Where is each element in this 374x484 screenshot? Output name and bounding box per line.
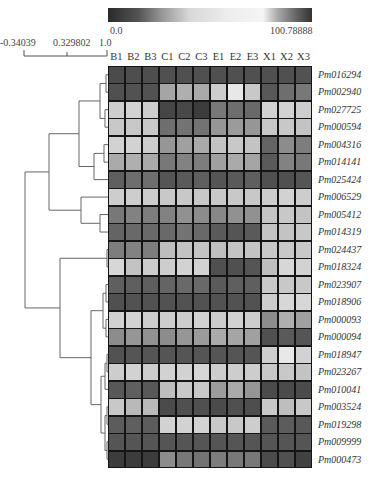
scale-bar <box>24 50 107 56</box>
row-dendrogram <box>0 0 374 484</box>
